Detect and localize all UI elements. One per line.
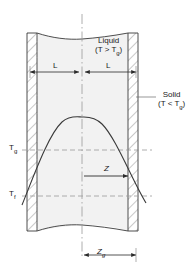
left-wall [27,33,37,231]
solid-label-close: ) [183,99,186,108]
solid-label-line1: Solid [163,90,181,99]
liquid-label-line1: Liquid [98,36,119,45]
tg-label-subscript: g [14,148,17,154]
tg-axis-label: Tg [9,143,17,156]
liquid-label-line2: (T > T [95,45,116,54]
zg-dimension-label: Zg [97,247,105,260]
right-wall [128,33,138,231]
length-right-label: L [106,61,110,70]
solid-label-line2: (T < T [158,99,179,108]
tf-label-subscript: f [14,194,16,200]
tf-axis-label: Tf [9,189,16,202]
length-left-label: L [53,61,57,70]
liquid-label-close: ) [120,45,123,54]
liquid-region [37,33,128,231]
liquid-label: Liquid (T > Tg) [95,36,122,58]
solid-label: Solid (T < Tg) [158,90,185,112]
zg-label-subscript: g [102,252,105,258]
z-axis-label: Z [104,164,109,173]
